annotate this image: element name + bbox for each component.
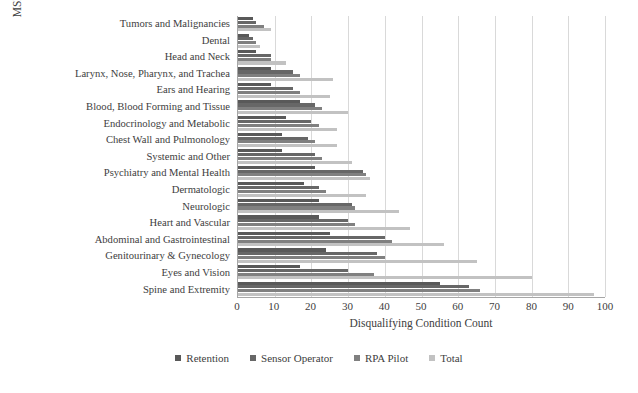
bar-rpa-pilot (238, 140, 315, 143)
bar-total (238, 243, 444, 246)
bar-total (238, 61, 286, 64)
bar-retention (238, 100, 300, 103)
bar-total (238, 177, 370, 180)
category-label: Larynx, Nose, Pharynx, and Trachea (38, 66, 234, 83)
bar-group (238, 264, 605, 281)
bar-retention (238, 182, 304, 185)
bar-rpa-pilot (238, 25, 264, 28)
bar-retention (238, 265, 300, 268)
bar-group (238, 231, 605, 248)
bar-total (238, 276, 532, 279)
bar-retention (238, 166, 315, 169)
bar-group (238, 181, 605, 198)
bar-total (238, 128, 337, 131)
x-tick-label: 20 (305, 300, 316, 312)
x-tick-label: 60 (452, 300, 463, 312)
bar-sensor-operator (238, 236, 385, 239)
category-label: Abdominal and Gastrointestinal (38, 232, 234, 249)
x-tick-label: 10 (268, 300, 279, 312)
bar-rpa-pilot (238, 173, 366, 176)
bar-retention (238, 83, 271, 86)
bar-rpa-pilot (238, 273, 374, 276)
category-label: Dental (38, 33, 234, 50)
bar-retention (238, 34, 249, 37)
category-label: Ears and Hearing (38, 82, 234, 99)
bar-rows (238, 16, 605, 297)
bar-group (238, 49, 605, 66)
legend-item-retention[interactable]: Retention (175, 352, 229, 364)
bar-sensor-operator (238, 87, 293, 90)
bar-sensor-operator (238, 37, 253, 40)
legend-swatch-icon (175, 355, 181, 361)
bar-group (238, 16, 605, 33)
bar-group (238, 214, 605, 231)
legend-item-rpa-pilot[interactable]: RPA Pilot (354, 352, 408, 364)
category-label: Psychiatry and Mental Health (38, 165, 234, 182)
bar-total (238, 161, 352, 164)
legend-swatch-icon (354, 355, 360, 361)
bar-sensor-operator (238, 70, 293, 73)
bar-group (238, 198, 605, 215)
bar-group (238, 99, 605, 116)
x-axis-tick-labels: 0102030405060708090100 (237, 300, 605, 316)
bar-rpa-pilot (238, 91, 300, 94)
bar-rpa-pilot (238, 58, 271, 61)
bar-sensor-operator (238, 269, 348, 272)
category-label: Heart and Vascular (38, 215, 234, 232)
legend-item-total[interactable]: Total (429, 352, 462, 364)
bar-rpa-pilot (238, 190, 326, 193)
bar-rpa-pilot (238, 223, 355, 226)
bar-retention (238, 232, 330, 235)
legend-swatch-icon (250, 355, 256, 361)
bar-sensor-operator (238, 219, 348, 222)
bar-rpa-pilot (238, 240, 392, 243)
x-tick-label: 80 (526, 300, 537, 312)
gridline (605, 16, 606, 297)
bar-total (238, 194, 366, 197)
bar-rpa-pilot (238, 124, 319, 127)
bar-total (238, 227, 410, 230)
bar-sensor-operator (238, 203, 352, 206)
bar-group (238, 132, 605, 149)
bar-retention (238, 199, 319, 202)
bar-sensor-operator (238, 186, 319, 189)
bar-total (238, 95, 330, 98)
legend-item-sensor-operator[interactable]: Sensor Operator (250, 352, 333, 364)
bar-sensor-operator (238, 153, 315, 156)
x-axis-title: Disqualifying Condition Count (237, 317, 605, 329)
x-tick-label: 100 (597, 300, 614, 312)
bar-retention (238, 248, 326, 251)
bar-rpa-pilot (238, 107, 322, 110)
bar-sensor-operator (238, 21, 256, 24)
bar-total (238, 210, 399, 213)
category-label: Dermatologic (38, 182, 234, 199)
category-label: Systemic and Other (38, 149, 234, 166)
bar-retention (238, 149, 282, 152)
bar-retention (238, 282, 440, 285)
bar-total (238, 144, 337, 147)
category-label: Chest Wall and Pulmonology (38, 132, 234, 149)
category-label: Blood, Blood Forming and Tissue (38, 99, 234, 116)
x-tick-label: 90 (563, 300, 574, 312)
x-tick-label: 70 (489, 300, 500, 312)
x-tick-label: 30 (342, 300, 353, 312)
bar-rpa-pilot (238, 256, 385, 259)
bar-total (238, 45, 260, 48)
bar-sensor-operator (238, 103, 315, 106)
category-label: Head and Neck (38, 49, 234, 66)
bar-total (238, 260, 477, 263)
legend: RetentionSensor OperatorRPA PilotTotal (0, 352, 638, 364)
bar-total (238, 28, 271, 31)
legend-label: RPA Pilot (365, 352, 408, 364)
bar-rpa-pilot (238, 157, 322, 160)
bar-retention (238, 67, 271, 70)
category-label: Spine and Extremity (38, 282, 234, 299)
bar-sensor-operator (238, 54, 271, 57)
x-tick-label: 50 (416, 300, 427, 312)
bar-retention (238, 116, 286, 119)
bar-total (238, 293, 594, 296)
bar-rpa-pilot (238, 206, 355, 209)
bar-group (238, 165, 605, 182)
bar-chart: MSD Disqualifying Condition Category Tum… (0, 0, 638, 393)
bar-retention (238, 17, 253, 20)
